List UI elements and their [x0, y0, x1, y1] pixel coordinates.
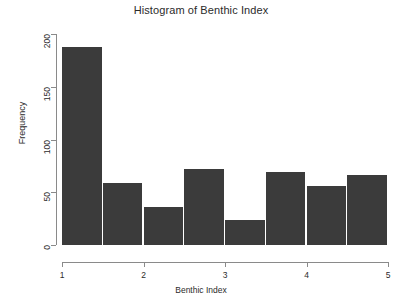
- y-tick-label-text: 150: [42, 87, 52, 101]
- histogram-bar: [225, 220, 265, 245]
- histogram-bar: [62, 47, 102, 245]
- histogram-figure: Histogram of Benthic Index 050100150200 …: [0, 0, 402, 305]
- x-tick-mark: [307, 262, 308, 267]
- y-axis-title-text: Frequency: [17, 102, 27, 145]
- x-tick-label: 2: [141, 270, 146, 280]
- x-tick-label: 5: [386, 270, 391, 280]
- histogram-bar: [307, 186, 347, 245]
- x-tick-label: 4: [304, 270, 309, 280]
- y-tick-label-text: 0: [42, 245, 52, 250]
- x-tick-mark: [62, 262, 63, 267]
- histogram-bar: [184, 169, 224, 245]
- histogram-bar: [347, 175, 387, 245]
- plot-area: 050100150200 12345: [0, 0, 402, 305]
- x-tick-label: 3: [223, 270, 228, 280]
- histogram-bar: [266, 172, 306, 245]
- histogram-bar: [144, 207, 184, 245]
- x-tick-mark: [388, 262, 389, 267]
- y-tick-label-text: 50: [42, 192, 52, 201]
- y-axis-line: [56, 34, 57, 245]
- x-tick-label: 1: [60, 270, 65, 280]
- y-tick-label-text: 100: [42, 140, 52, 154]
- histogram-bar: [103, 183, 143, 245]
- x-tick-mark: [225, 262, 226, 267]
- x-tick-mark: [144, 262, 145, 267]
- x-axis-title: Benthic Index: [0, 285, 402, 295]
- y-tick-label-text: 200: [42, 34, 52, 48]
